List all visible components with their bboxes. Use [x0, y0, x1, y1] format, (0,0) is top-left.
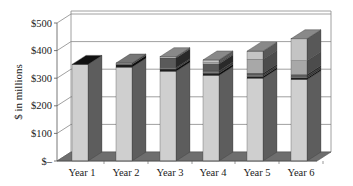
bar-segment [116, 67, 132, 161]
x-tick-label: Year 4 [199, 167, 227, 178]
y-tick-label: $– [42, 156, 53, 167]
bar-segment [116, 63, 132, 64]
bar-segment [72, 64, 88, 161]
bar-segment [291, 76, 307, 78]
y-axis: $–$100$200$300$400$500 [31, 18, 57, 167]
bar-segment [291, 78, 307, 80]
x-axis: Year 1Year 2Year 3Year 4Year 5Year 6 [57, 161, 323, 178]
x-tick-label: Year 3 [156, 167, 183, 178]
bar-segment [203, 64, 219, 71]
bar-segment [203, 63, 219, 64]
x-tick-label: Year 1 [68, 167, 95, 178]
bar-segment [247, 77, 263, 79]
y-axis-label: $ in millions [12, 64, 24, 120]
bar-segment [291, 75, 307, 77]
bar-segment [203, 73, 219, 75]
y-tick-label: $200 [31, 100, 52, 111]
bar-segment [247, 73, 263, 75]
bar-year-5 [247, 42, 277, 161]
bar-segment [247, 51, 263, 59]
bar-year-2 [116, 54, 146, 161]
bar-segment [160, 58, 176, 68]
bar-segment [160, 57, 176, 58]
bar-year-6 [291, 30, 321, 161]
x-tick-label: Year 6 [287, 167, 314, 178]
bar-segment [291, 61, 307, 75]
bar-segment [160, 71, 176, 161]
bar-segment [291, 39, 307, 61]
bar-segment [116, 64, 132, 67]
y-tick-label: $500 [31, 18, 52, 29]
chart-side-wall [57, 14, 71, 161]
bar-segment [291, 80, 307, 161]
bar-year-1 [72, 55, 102, 161]
y-tick-label: $400 [31, 45, 52, 56]
bar-segment [160, 69, 176, 71]
bar-segment [160, 68, 176, 69]
bar-segment [247, 75, 263, 77]
bar-segment [203, 71, 219, 73]
x-tick-label: Year 5 [243, 167, 270, 178]
bar-segment [247, 59, 263, 73]
y-tick-label: $100 [31, 128, 52, 139]
bar-year-3 [160, 48, 190, 161]
bar-year-4 [203, 51, 233, 161]
stacked-3d-bar-chart: $–$100$200$300$400$500 $ in millions Yea… [0, 0, 353, 186]
bar-segment [203, 60, 219, 63]
y-tick-label: $300 [31, 73, 52, 84]
x-tick-label: Year 2 [112, 167, 139, 178]
bar-segment [203, 75, 219, 161]
bar-segment [247, 78, 263, 161]
